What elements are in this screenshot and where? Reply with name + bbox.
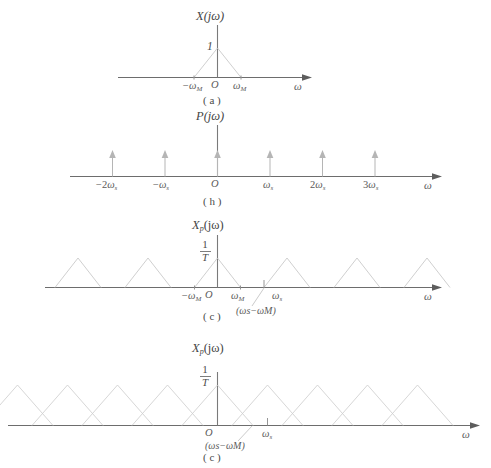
panel-b-tick-label-pos2ws: 2ωs	[310, 180, 325, 192]
impulse-head-origin	[214, 150, 221, 158]
panel-d-annotation: (ωs−ωM)	[205, 441, 245, 451]
panel-a-tick-label-pos-wm: ωM	[233, 81, 246, 93]
replica-pos1	[264, 258, 310, 288]
panel-a-signal-label: X(jω)	[196, 10, 224, 23]
panel-a-tick-label-neg-wm: −ωM	[182, 81, 202, 93]
panel-d-amplitude-label: 1 T	[198, 364, 212, 388]
panel-d-spectral-replicas-aliased	[0, 385, 453, 426]
panel-d-signal-label: Xp(jω)	[192, 342, 224, 356]
panel-a-x-axis-arrow	[302, 74, 312, 81]
panel-b-axis-label: ω	[424, 180, 432, 191]
panel-d-axis-label: ω	[462, 429, 470, 440]
panel-c-axis-label: ω	[424, 291, 432, 302]
panel-d-tick-label-ws: ωs	[262, 429, 272, 441]
panel-d-caption: ( c )	[203, 452, 221, 463]
panel-c-annotation: (ωs−ωM)	[236, 306, 276, 316]
impulse-head-pos2ws	[319, 150, 326, 158]
impulse-head-pos3ws	[372, 150, 379, 158]
impulse-head-pos1ws	[267, 150, 274, 158]
panel-c-origin-label: O	[205, 290, 213, 301]
panel-c-tick-label-ws: ωs	[272, 291, 282, 303]
panel-c-tick-label-pos-wm: ωM	[231, 291, 244, 303]
impulse-head-neg1ws	[162, 150, 169, 158]
replica-pos3	[404, 258, 450, 288]
panel-b-tick-label-neg2ws: −2ωs	[96, 180, 117, 192]
panel-d-origin-label: O	[205, 428, 213, 439]
alias-replica-neg1	[132, 385, 203, 426]
alias-replica-pos4	[382, 385, 453, 426]
panel-b-tick-label-neg1ws: −ωs	[153, 180, 169, 192]
panel-c-signal-label: Xp(jω)	[192, 219, 224, 233]
panel-d-x-axis-arrow	[470, 422, 480, 429]
alias-replica-neg2	[82, 385, 153, 426]
panel-b-graphics	[70, 125, 442, 180]
panel-a-caption: ( a )	[203, 95, 221, 106]
panel-c-caption: ( c )	[203, 311, 221, 322]
panel-c-annotation-leader	[252, 288, 264, 306]
impulse-head-neg2ws	[109, 150, 116, 158]
panel-d-annotation-leader	[238, 426, 252, 441]
replica-pos2	[334, 258, 380, 288]
panel-c-amplitude-label: 1 T	[198, 239, 212, 263]
panel-c-graphics	[45, 235, 450, 306]
alias-replica-pos2	[282, 385, 353, 426]
panel-c-tick-label-neg-wm: −ωM	[181, 291, 201, 303]
alias-replica-neg4	[0, 385, 53, 426]
panel-a-amplitude-label: 1	[207, 41, 213, 53]
panel-a-axis-label: ω	[294, 81, 302, 92]
panel-c-spectral-replicas	[55, 258, 450, 288]
panel-b-caption: ( h )	[203, 196, 221, 207]
sampling-theorem-figure: X(jω) 1 −ωM O ωM ω ( a ) P(jω) −2ωs −ωs …	[0, 0, 491, 468]
figure-canvas	[0, 0, 491, 468]
replica-neg2	[125, 258, 171, 288]
alias-replica-neg3	[32, 385, 103, 426]
replica-neg3	[55, 258, 101, 288]
panel-b-origin-label: O	[211, 179, 219, 190]
panel-b-tick-label-pos1ws: ωs	[263, 180, 273, 192]
panel-c-x-axis-arrow	[432, 284, 442, 291]
panel-b-x-axis-arrow	[432, 173, 442, 180]
alias-replica-pos3	[332, 385, 403, 426]
panel-a-graphics	[118, 25, 312, 81]
panel-b-tick-label-pos3ws: 3ωs	[363, 180, 378, 192]
panel-d-graphics	[0, 372, 480, 441]
panel-a-origin-label: O	[211, 80, 219, 91]
panel-b-impulse-train	[109, 150, 378, 177]
panel-b-signal-label: P(jω)	[196, 110, 224, 123]
